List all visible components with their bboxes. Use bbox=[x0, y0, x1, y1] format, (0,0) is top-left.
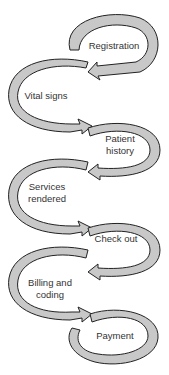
step-label-registration: Registration bbox=[84, 40, 144, 52]
step-label-vital-signs: Vital signs bbox=[16, 90, 76, 102]
step-label-check-out: Check out bbox=[88, 233, 144, 245]
step-label-patient-history: Patient history bbox=[95, 133, 145, 157]
step-label-payment: Payment bbox=[88, 330, 142, 342]
process-flow-diagram: .band { fill: #c8c8c8; stroke: #222; str… bbox=[0, 0, 169, 375]
step-label-services-rendered: Services rendered bbox=[20, 181, 74, 205]
loop-arrow-check-out bbox=[88, 223, 160, 280]
step-label-billing-and-coding: Billing and coding bbox=[20, 277, 80, 301]
